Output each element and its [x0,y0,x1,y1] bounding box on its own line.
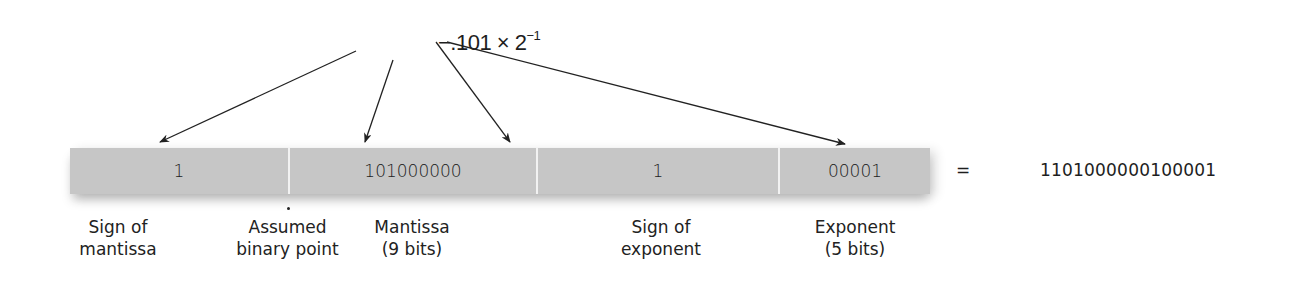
arrow-to-sign-of-exponent [436,42,510,142]
field-value: 1 [653,161,664,181]
arrow-to-sign-of-mantissa [160,51,356,142]
arrow-to-mantissa [365,60,393,142]
label-assumed-binary-point: Assumed binary point [225,216,350,260]
field-value: 101000000 [364,161,461,181]
binary-result: 1101000000100001 [1040,160,1216,180]
arrow-to-exponent [447,42,845,144]
label-line: Sign of [606,216,716,238]
label-line: exponent [606,238,716,260]
field-sign-of-mantissa: 1 [70,148,288,194]
field-sign-of-exponent: 1 [536,148,778,194]
field-value: 1 [174,161,185,181]
label-exponent: Exponent (5 bits) [800,216,910,260]
equals-sign: = [956,160,970,180]
bit-register: 1 101000000 1 00001 [70,148,930,194]
field-exponent: 00001 [778,148,930,194]
label-mantissa: Mantissa (9 bits) [362,216,462,260]
label-line: Assumed [225,216,350,238]
label-line: binary point [225,238,350,260]
label-sign-of-exponent: Sign of exponent [606,216,716,260]
label-line: Sign of [68,216,168,238]
label-line: (9 bits) [362,238,462,260]
field-mantissa: 101000000 [288,148,536,194]
field-value: 00001 [828,161,882,181]
label-line: Exponent [800,216,910,238]
label-line: (5 bits) [800,238,910,260]
label-line: Mantissa [362,216,462,238]
assumed-binary-point-marker [287,207,290,210]
label-line: mantissa [68,238,168,260]
label-sign-of-mantissa: Sign of mantissa [68,216,168,260]
